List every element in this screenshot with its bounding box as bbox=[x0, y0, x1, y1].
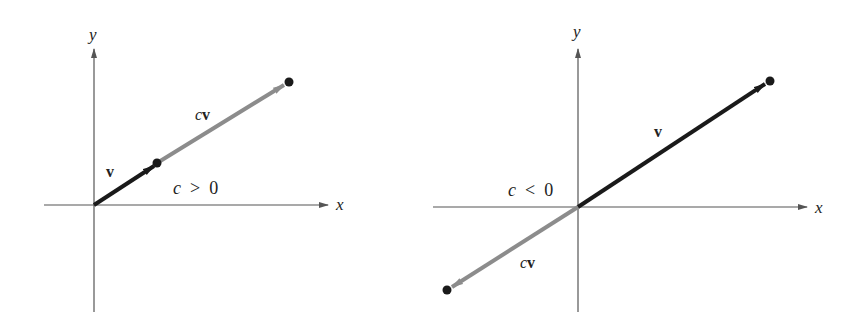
left-v-endpoint bbox=[153, 159, 162, 168]
left-condition-val: 0 bbox=[209, 178, 218, 198]
right-v-label: v bbox=[654, 123, 662, 140]
right-cv-label: cv bbox=[520, 254, 535, 271]
left-cv-vector-symbol: v bbox=[202, 106, 210, 123]
left-cv-endpoint bbox=[285, 78, 294, 87]
left-condition-op: > bbox=[190, 178, 200, 198]
right-condition-var: c bbox=[508, 180, 516, 200]
left-cv-vector bbox=[157, 85, 284, 163]
left-v-vector bbox=[94, 166, 154, 205]
left-condition: c>0 bbox=[173, 178, 218, 198]
left-v-label: v bbox=[106, 163, 114, 180]
right-condition-val: 0 bbox=[544, 180, 553, 200]
left-condition-var: c bbox=[173, 178, 181, 198]
left-x-label: x bbox=[335, 195, 344, 214]
scalar-multiplication-diagram: x y v cv c>0 x y v cv bbox=[0, 0, 863, 329]
right-cv-vector bbox=[452, 207, 578, 287]
right-condition: c<0 bbox=[508, 180, 553, 200]
right-v-vector bbox=[578, 84, 765, 207]
right-condition-op: < bbox=[525, 180, 535, 200]
right-x-label: x bbox=[814, 198, 823, 217]
right-cv-endpoint bbox=[443, 286, 452, 295]
right-y-label: y bbox=[571, 22, 581, 41]
left-cv-label: cv bbox=[195, 106, 210, 123]
left-cv-scalar: c bbox=[195, 106, 202, 123]
right-figure: x y v cv c<0 bbox=[433, 22, 823, 312]
right-cv-scalar: c bbox=[520, 254, 527, 271]
left-figure: x y v cv c>0 bbox=[44, 25, 344, 312]
right-v-endpoint bbox=[766, 77, 775, 86]
left-y-label: y bbox=[87, 25, 97, 44]
right-cv-vector-symbol: v bbox=[527, 254, 535, 271]
